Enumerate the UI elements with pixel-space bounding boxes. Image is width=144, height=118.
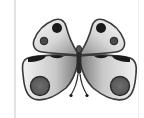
butterfly-icon [0,0,144,118]
upper-left-wing [33,19,77,55]
upper-right-wing [81,19,125,55]
lower-left-wing [23,55,78,100]
lower-right-wing [80,55,136,100]
wing-spot-black [52,23,62,33]
wing-spot-gray [31,77,50,96]
butterfly-body [76,46,81,75]
wing-spot-gray [40,37,48,45]
wing-spot-gray [110,37,118,45]
wing-spot-gray [111,77,130,96]
wing-spot-black [96,23,106,33]
